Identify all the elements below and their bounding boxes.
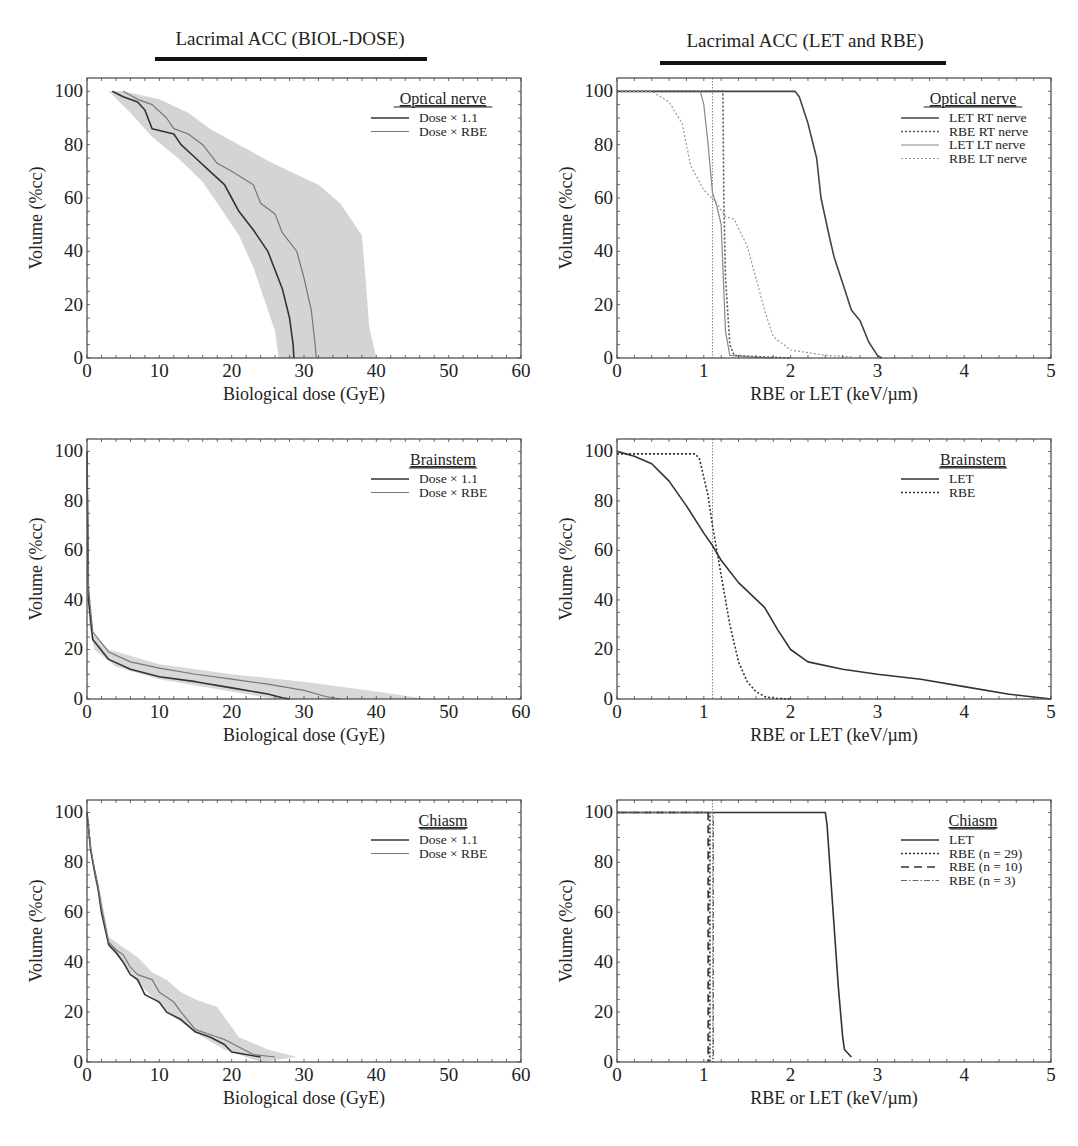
x-tick-label: 0	[82, 701, 92, 722]
x-axis-label: Biological dose (GyE)	[223, 725, 385, 746]
y-tick-label: 80	[594, 490, 613, 511]
x-tick-label: 0	[612, 360, 622, 381]
y-tick-label: 40	[594, 240, 613, 261]
y-tick-label: 60	[64, 901, 83, 922]
y-tick-label: 60	[64, 187, 83, 208]
x-tick-label: 0	[612, 1064, 622, 1085]
legend-entry: RBE	[949, 485, 975, 500]
series-line	[617, 91, 882, 358]
x-tick-label: 40	[367, 701, 386, 722]
x-tick-label: 2	[786, 1064, 796, 1085]
y-tick-label: 40	[594, 951, 613, 972]
x-tick-label: 50	[439, 1064, 458, 1085]
y-tick-label: 0	[74, 347, 84, 368]
x-tick-label: 20	[222, 701, 241, 722]
x-tick-label: 50	[439, 701, 458, 722]
y-tick-label: 0	[74, 1051, 84, 1072]
y-tick-label: 20	[594, 1001, 613, 1022]
y-tick-label: 40	[64, 589, 83, 610]
y-tick-label: 100	[55, 80, 84, 101]
x-tick-label: 2	[786, 360, 796, 381]
x-tick-label: 40	[367, 1064, 386, 1085]
x-tick-label: 30	[295, 701, 314, 722]
x-tick-label: 0	[82, 1064, 92, 1085]
x-tick-label: 20	[222, 1064, 241, 1085]
y-tick-label: 0	[604, 347, 614, 368]
x-axis-label: RBE or LET (keV/µm)	[750, 725, 918, 746]
legend-entry: Dose × RBE	[419, 124, 487, 139]
y-tick-label: 80	[594, 134, 613, 155]
y-tick-label: 20	[64, 1001, 83, 1022]
x-tick-label: 5	[1046, 1064, 1056, 1085]
legend-entry: Dose × RBE	[419, 846, 487, 861]
y-tick-label: 40	[594, 589, 613, 610]
range-band	[87, 451, 427, 699]
series-line	[617, 812, 851, 1057]
y-tick-label: 100	[585, 80, 614, 101]
x-tick-label: 3	[873, 701, 883, 722]
chart-optic-let: 012345020406080100RBE or LET (keV/µm)Vol…	[556, 78, 1056, 405]
series-line	[617, 451, 1051, 699]
x-tick-label: 0	[82, 360, 92, 381]
legend-title: Optical nerve	[400, 90, 487, 108]
figure-canvas: 0102030405060020406080100Biological dose…	[0, 0, 1078, 1146]
y-tick-label: 20	[64, 294, 83, 315]
x-axis-label: Biological dose (GyE)	[223, 1088, 385, 1109]
legend-entry: RBE LT nerve	[949, 151, 1027, 166]
x-tick-label: 10	[150, 1064, 169, 1085]
x-axis-label: Biological dose (GyE)	[223, 384, 385, 405]
range-band	[109, 91, 377, 358]
x-tick-label: 10	[150, 701, 169, 722]
y-axis-label: Volume (%cc)	[26, 517, 47, 620]
x-axis-label: RBE or LET (keV/µm)	[750, 1088, 918, 1109]
series-line	[617, 91, 791, 358]
y-tick-label: 100	[55, 801, 84, 822]
y-tick-label: 0	[604, 1051, 614, 1072]
y-tick-label: 100	[55, 440, 84, 461]
y-tick-label: 80	[64, 851, 83, 872]
y-axis-label: Volume (%cc)	[556, 517, 577, 620]
x-tick-label: 4	[959, 360, 969, 381]
chart-brainstem-dose: 0102030405060020406080100Biological dose…	[26, 439, 531, 746]
y-axis-label: Volume (%cc)	[556, 166, 577, 269]
x-tick-label: 5	[1046, 360, 1056, 381]
x-tick-label: 4	[959, 701, 969, 722]
chart-chiasm-dose: 0102030405060020406080100Biological dose…	[26, 800, 531, 1109]
legend-entry: Dose × RBE	[419, 485, 487, 500]
x-tick-label: 1	[699, 701, 709, 722]
x-tick-label: 3	[873, 360, 883, 381]
legend-title: Chiasm	[949, 812, 998, 829]
y-axis-label: Volume (%cc)	[26, 166, 47, 269]
x-tick-label: 60	[512, 1064, 531, 1085]
legend-title: Brainstem	[940, 451, 1006, 468]
y-tick-label: 40	[64, 240, 83, 261]
chart-optic-dose: 0102030405060020406080100Biological dose…	[26, 78, 531, 405]
y-tick-label: 100	[585, 440, 614, 461]
chart-brainstem-let: 012345020406080100RBE or LET (keV/µm)Vol…	[556, 439, 1056, 746]
x-tick-label: 10	[150, 360, 169, 381]
y-tick-label: 80	[594, 851, 613, 872]
x-tick-label: 0	[612, 701, 622, 722]
series-line	[617, 91, 851, 356]
plot-frame	[617, 439, 1051, 699]
y-tick-label: 80	[64, 490, 83, 511]
y-tick-label: 60	[594, 539, 613, 560]
y-axis-label: Volume (%cc)	[26, 879, 47, 982]
y-tick-label: 20	[594, 294, 613, 315]
chart-chiasm-let: 012345020406080100RBE or LET (keV/µm)Vol…	[556, 800, 1056, 1109]
x-tick-label: 50	[439, 360, 458, 381]
y-tick-label: 60	[64, 539, 83, 560]
x-tick-label: 1	[699, 1064, 709, 1085]
series-line	[617, 454, 791, 699]
x-tick-label: 4	[959, 1064, 969, 1085]
legend-title: Chiasm	[419, 812, 468, 829]
x-tick-label: 3	[873, 1064, 883, 1085]
y-tick-label: 60	[594, 187, 613, 208]
x-tick-label: 30	[295, 1064, 314, 1085]
y-tick-label: 0	[604, 688, 614, 709]
series-line	[617, 812, 708, 1062]
legend-title: Optical nerve	[930, 90, 1017, 108]
series-line	[87, 812, 261, 1057]
x-axis-label: RBE or LET (keV/µm)	[750, 384, 918, 405]
y-tick-label: 20	[594, 638, 613, 659]
